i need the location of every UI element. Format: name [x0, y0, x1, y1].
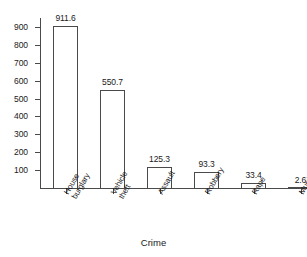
bar-value-label: 125.3: [140, 155, 180, 164]
bar-value-label: 911.6: [46, 14, 86, 23]
cut-off-caption: [0, 0, 307, 6]
bar: [53, 26, 78, 189]
x-axis-title: Crime: [0, 237, 307, 248]
bar-value-label: 550.7: [93, 78, 133, 87]
bar-chart: 100200300400500600700800900 911.6550.712…: [0, 0, 307, 257]
